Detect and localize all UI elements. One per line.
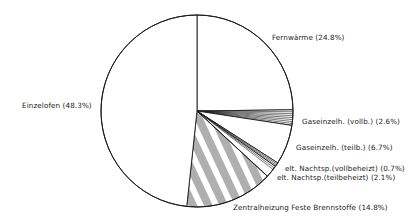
- label-zentralheizung: Zentralheizung Feste Brennstoffe (14.8%): [233, 204, 388, 211]
- slice-0: [197, 15, 293, 111]
- label-fernwaerme: Fernwärme (24.8%): [272, 34, 345, 41]
- pie-chart: [0, 0, 420, 224]
- label-elt-nachtsp-teilbeheizt: elt. Nachtsp.(teilbeheizt) (2.1%): [277, 174, 395, 181]
- label-gaseinzelh-vollb: Gaseinzelh. (vollb.) (2.6%): [302, 118, 400, 125]
- label-gaseinzelh-teilb: Gaseinzelh. (teilb.) (6.7%): [296, 144, 393, 151]
- label-einzelofen: Einzelofen (48.3%): [22, 102, 92, 109]
- pie-slices: [101, 15, 293, 207]
- slice-6: [101, 15, 197, 206]
- label-elt-nachtsp-vollbeheizt: elt. Nachtsp.(vollbeheizt) (0.7%): [285, 165, 405, 172]
